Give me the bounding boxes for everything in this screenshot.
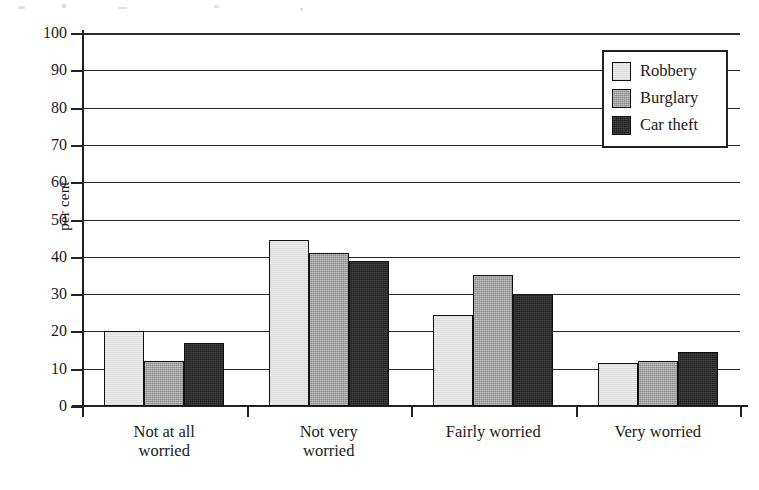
bar xyxy=(269,240,309,406)
gridline xyxy=(82,294,740,295)
y-axis-tick xyxy=(71,294,82,296)
gridline xyxy=(82,331,740,332)
y-axis-tick-label: 40 xyxy=(21,249,67,265)
x-axis-tick xyxy=(576,406,578,417)
gridline xyxy=(82,220,740,221)
x-axis-tick xyxy=(247,406,249,417)
y-axis-tick xyxy=(71,331,82,333)
y-axis-tick xyxy=(71,406,82,408)
y-axis-tick-label: 50 xyxy=(21,212,67,228)
bar xyxy=(638,361,678,406)
bar xyxy=(349,261,389,406)
y-axis-tick-label: 10 xyxy=(21,361,67,377)
bar xyxy=(144,361,184,406)
burglary-swatch xyxy=(612,89,631,108)
y-axis-tick-label: 30 xyxy=(21,286,67,302)
legend-item-label: Robbery xyxy=(640,63,697,80)
car-theft-swatch xyxy=(612,116,631,135)
robbery-swatch xyxy=(612,62,631,81)
y-axis-tick-label: 20 xyxy=(21,323,67,339)
scan-artifact xyxy=(118,7,127,9)
y-axis-tick xyxy=(71,257,82,259)
scan-artifact xyxy=(18,6,25,9)
scan-artifact xyxy=(214,5,219,8)
legend-item-label: Burglary xyxy=(640,90,698,107)
y-axis-tick-label: 100 xyxy=(21,25,67,41)
y-axis-tick xyxy=(71,182,82,184)
x-axis-category-label: Fairly worried xyxy=(411,422,576,441)
y-axis-tick xyxy=(71,145,82,147)
gridline xyxy=(82,33,740,35)
y-axis-tick-label: 70 xyxy=(21,137,67,153)
bar xyxy=(513,294,553,406)
bar xyxy=(309,253,349,406)
x-axis-tick xyxy=(82,406,84,417)
y-axis-tick xyxy=(71,108,82,110)
x-axis-tick xyxy=(411,406,413,417)
y-axis-tick xyxy=(71,33,82,35)
legend-item: Car theft xyxy=(612,112,718,139)
scan-artifact xyxy=(62,4,66,8)
gridline xyxy=(82,182,740,183)
legend-item-label: Car theft xyxy=(640,117,698,134)
y-axis-tick-label: 80 xyxy=(21,100,67,116)
bar xyxy=(433,315,473,406)
x-axis-category-label: Not very worried xyxy=(247,422,412,460)
x-axis-category-label: Very worried xyxy=(576,422,741,441)
bar xyxy=(104,331,144,406)
y-axis-tick xyxy=(71,70,82,72)
bar xyxy=(598,363,638,406)
x-axis-tick xyxy=(740,406,742,417)
bar xyxy=(678,352,718,406)
legend-item: Burglary xyxy=(612,85,718,112)
bar xyxy=(184,343,224,406)
x-axis-category-label: Not at all worried xyxy=(82,422,247,460)
legend-item: Robbery xyxy=(612,58,718,85)
y-axis-tick-label: 60 xyxy=(21,174,67,190)
y-axis-tick-label: 0 xyxy=(21,398,67,414)
bar xyxy=(473,275,513,406)
legend: RobberyBurglaryCar theft xyxy=(602,50,728,148)
scan-artifact xyxy=(300,8,303,11)
y-axis-tick xyxy=(71,369,82,371)
figure: per cent 0102030405060708090100 Not at a… xyxy=(0,0,759,490)
y-axis-tick xyxy=(71,220,82,222)
gridline xyxy=(82,257,740,258)
y-axis-tick-label: 90 xyxy=(21,62,67,78)
